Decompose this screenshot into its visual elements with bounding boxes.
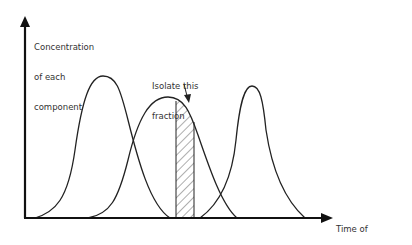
annotation-line: fraction: [152, 111, 198, 121]
y-axis-label: Concentration of each component: [34, 22, 94, 122]
x-axis-label: Time of removal from column: [336, 204, 393, 245]
x-axis-arrow-icon: [321, 213, 333, 223]
component-3-curve: [200, 86, 305, 218]
y-axis-arrow-icon: [20, 16, 30, 27]
y-axis-label-line: of each: [34, 72, 94, 82]
annotation-line: Isolate this: [152, 81, 198, 91]
annotation-label: Isolate this fraction: [152, 61, 198, 131]
x-axis-label-line: Time of: [336, 224, 393, 234]
y-axis-label-line: component: [34, 102, 94, 112]
y-axis-label-line: Concentration: [34, 42, 94, 52]
